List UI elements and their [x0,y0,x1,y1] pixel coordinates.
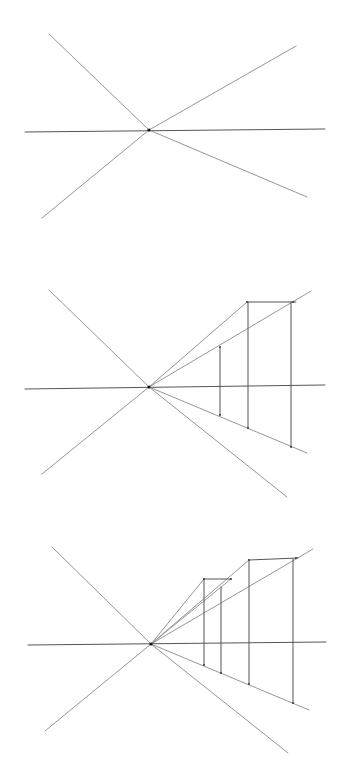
upper-right-ray [151,549,313,644]
construction-point [295,557,297,559]
vanishing-point [149,642,152,645]
construction-point [292,702,294,704]
construction-point [248,683,250,685]
step-2-first-building [25,290,325,497]
construction-point [246,301,248,303]
vanishing-point [147,128,150,131]
construction-point [219,346,221,348]
lower-ground-ray [149,387,307,453]
upper-left-ray [49,290,149,387]
horizon-line [25,385,325,389]
perspective-drawing [0,0,347,766]
construction-point [290,446,292,448]
step-3-second-building [28,547,326,753]
upper-left-ray [52,547,151,644]
construction-point [230,578,232,580]
lower-right-ray [149,387,287,497]
construction-point [292,301,294,303]
construction-point [203,664,205,666]
vanishing-point [147,385,150,388]
construction-point [247,427,249,429]
upper-right-ray [149,291,311,387]
ray-to-small-box-top-left [151,579,204,644]
horizon-line [25,129,325,132]
upper-right-ray [149,46,296,130]
construction-point [248,559,250,561]
construction-point [220,672,222,674]
ray-to-box-top-left [149,302,247,387]
construction-point [219,414,221,416]
step-1-vanishing-lines [25,34,325,218]
ray-to-large-box-top-left [151,560,249,644]
lower-left-ray [42,387,149,474]
horizon-line [28,642,326,645]
lower-left-ray [45,644,151,731]
lower-left-ray [42,130,149,218]
construction-point [203,578,205,580]
lower-right-ray [151,644,288,753]
lower-right-ray [149,130,307,197]
upper-left-ray [49,34,149,130]
lower-ground-ray [151,644,309,710]
large-box-top-edge [249,558,298,560]
